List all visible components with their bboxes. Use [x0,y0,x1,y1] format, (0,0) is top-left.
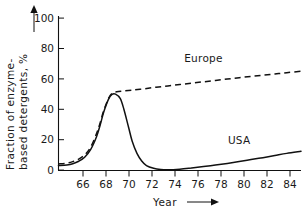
x-tick-label: 68 [99,178,112,190]
y-axis-title-line2: based detergents, % [17,54,29,171]
x-tick-label: 82 [260,178,273,190]
x-tick-label: 84 [283,178,297,190]
x-tick-label: 80 [237,178,250,190]
x-axis-title-text: Year [152,196,177,208]
x-tick-label: 74 [168,178,182,190]
x-axis-tick-labels: 66 68 70 72 74 76 78 80 82 84 [76,178,297,190]
y-tick-label: 0 [47,164,54,176]
y-axis-title: Fraction of enzyme- based detergents, % [4,54,29,171]
x-tick-label: 76 [191,178,205,190]
x-axis-ticks [83,171,290,177]
series-line-europe [59,71,302,164]
x-axis-arrow-icon [211,199,219,206]
x-tick-label: 72 [145,178,158,190]
x-axis-title: Year [152,196,219,208]
y-tick-label: 40 [41,103,54,115]
series-label-usa: USA [228,134,251,146]
y-tick-label: 100 [34,12,54,24]
series-label-europe: Europe [184,52,223,64]
chart-svg: 100 80 60 40 20 0 66 68 70 72 74 [0,0,308,213]
y-axis-ticks [59,18,65,170]
x-tick-label: 78 [214,178,227,190]
chart-figure: 100 80 60 40 20 0 66 68 70 72 74 [0,0,308,213]
y-axis-title-line1: Fraction of enzyme- [4,58,16,170]
x-tick-label: 66 [76,178,90,190]
y-tick-label: 60 [41,73,54,85]
x-tick-label: 70 [122,178,135,190]
y-tick-label: 80 [41,42,54,54]
y-tick-label: 20 [41,133,54,145]
y-axis-tick-labels: 100 80 60 40 20 0 [34,12,54,176]
series-line-usa [59,94,302,170]
